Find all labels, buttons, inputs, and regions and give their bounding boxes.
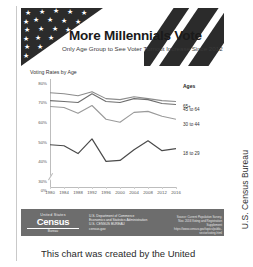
footer-agency-block: U.S. Department of Commerce Economics an… (89, 214, 149, 231)
infographic-card: ★ ★ ★ ★ ★ ★ ★ ★ ★ ★ ★ ★ ★ ★ ★ ★ ★ ★ ★ ★ (21, 8, 224, 240)
star-icon: ★ (33, 17, 39, 24)
side-caption: U.S. Census Bureau (240, 150, 250, 229)
legend-item-30-to-44: 30 to 44 (183, 122, 200, 127)
legend-title: Ages (183, 83, 224, 89)
star-icon: ★ (25, 10, 31, 17)
star-icon: ★ (39, 9, 45, 16)
x-axis-tick-mark (120, 187, 121, 189)
footer-source-line-2: Nov. 2016 Voting and Registration Supple… (164, 219, 222, 227)
x-axis-tick-mark (64, 187, 65, 189)
line-series-65plus (50, 92, 176, 102)
census-logo-word: Census (27, 217, 79, 229)
footer-agency-line-4[interactable]: census.gov (89, 227, 149, 231)
line-series-18to29 (50, 139, 176, 162)
body-caption: This chart was created by the United (41, 248, 241, 259)
footer-source-block: Source: Current Population Survey, Nov. … (164, 215, 222, 235)
chart-legend: Ages 65+45 to 6430 to 4418 to 29 (183, 83, 224, 96)
x-axis-tick-mark (176, 187, 177, 189)
x-axis-tick-mark (78, 187, 79, 189)
y-axis-tick-label: 50% (27, 140, 47, 145)
document-page: ★ ★ ★ ★ ★ ★ ★ ★ ★ ★ ★ ★ ★ ★ ★ ★ ★ ★ ★ ★ (0, 0, 253, 267)
page-title: More Millennials Vote (69, 28, 219, 43)
flag-banner-header: ★ ★ ★ ★ ★ ★ ★ ★ ★ ★ ★ ★ ★ ★ ★ ★ ★ ★ ★ ★ (21, 8, 224, 66)
star-icon: ★ (24, 27, 30, 34)
y-axis-tick-label: 40% (27, 159, 47, 164)
census-logo: United States Census Bureau (27, 213, 79, 232)
line-chart-plot (50, 79, 176, 185)
star-icon: ★ (23, 19, 29, 26)
legend-item-45-to-64: 45 to 64 (183, 107, 200, 112)
census-footer-bar: United States Census Bureau U.S. Departm… (21, 209, 224, 236)
x-axis-line (50, 187, 177, 188)
star-icon: ★ (48, 35, 54, 42)
x-axis-tick-mark (134, 187, 135, 189)
census-logo-top: United States (27, 213, 79, 217)
star-icon: ★ (23, 36, 29, 43)
line-series-30to44 (50, 106, 176, 123)
page-edge-divider (16, 6, 17, 261)
census-logo-sub: Bureau (27, 229, 79, 233)
star-icon: ★ (37, 44, 43, 51)
star-icon: ★ (38, 26, 44, 33)
chart-axis-title: Voting Rates by Age (30, 69, 77, 75)
star-icon: ★ (67, 9, 73, 16)
star-icon: ★ (52, 26, 58, 33)
star-icon: ★ (53, 8, 59, 15)
star-icon: ★ (47, 17, 53, 24)
y-axis-tick-label: 70% (27, 100, 47, 105)
page-subtitle: Only Age Group to See Voter Turnout Incr… (62, 45, 222, 52)
chart-container: Voting Rates by Age 80%70%60%50%40%30%0%… (21, 66, 224, 208)
y-axis-tick-label: 80% (27, 81, 47, 86)
star-icon: ★ (75, 19, 81, 26)
x-axis-tick-mark (50, 187, 51, 189)
x-axis-tick-mark (162, 187, 163, 189)
y-axis-tick-label: 30% (27, 179, 47, 184)
footer-source-line-3[interactable]: https://www.census.gov/topics/public-sec… (164, 227, 222, 235)
star-icon: ★ (35, 35, 41, 42)
x-axis-tick-mark (148, 187, 149, 189)
star-icon: ★ (81, 10, 87, 17)
x-axis-tick-mark (92, 187, 93, 189)
x-axis-tick-label: 2016 (165, 190, 187, 195)
legend-item-18-to-29: 18 to 29 (183, 151, 200, 156)
star-icon: ★ (24, 44, 30, 51)
x-axis-tick-mark (106, 187, 107, 189)
y-axis-tick-label: 60% (27, 120, 47, 125)
star-icon: ★ (61, 18, 67, 25)
star-icon: ★ (23, 53, 29, 60)
